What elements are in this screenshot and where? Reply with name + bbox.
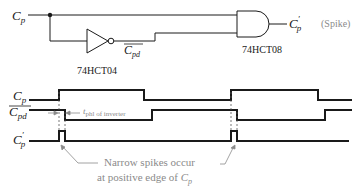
output-label-cp-prime: C′p xyxy=(289,14,302,33)
timing-label-cp: Cp xyxy=(13,88,27,105)
waveform-cpd xyxy=(29,110,352,120)
branch-wire xyxy=(50,15,87,41)
and-gate-icon xyxy=(237,11,269,37)
waveform-cp xyxy=(29,90,352,100)
cpd-label: Cpd xyxy=(124,43,143,59)
timing-label-cp-prime: C′p xyxy=(13,130,26,149)
svg-text:Cpd: Cpd xyxy=(9,104,27,121)
timing-diagram: Cp Cpd C′p xyxy=(9,88,352,186)
circuit-schematic: Cp 74HCT04 Cpd 74HCT08 xyxy=(12,8,350,76)
timing-label-cpd: Cpd xyxy=(9,104,31,121)
svg-text:Cpd: Cpd xyxy=(124,43,141,59)
spike-note: (Spike) xyxy=(321,18,350,30)
inverter-gate-icon xyxy=(87,29,114,53)
tpd-label: tphl of inverter xyxy=(83,106,126,118)
waveform-cp-prime xyxy=(29,131,349,141)
inverter-part-label: 74HCT04 xyxy=(77,65,117,76)
spike-note-line1: Narrow spikes occur xyxy=(104,156,195,168)
and-part-label: 74HCT08 xyxy=(242,44,282,55)
input-label-cp: Cp xyxy=(12,8,26,25)
spike-circuit-diagram: Cp 74HCT04 Cpd 74HCT08 xyxy=(0,0,364,186)
spike-note-line2: at positive edge of Cp xyxy=(97,171,192,186)
inverter-output-wire xyxy=(114,33,237,41)
